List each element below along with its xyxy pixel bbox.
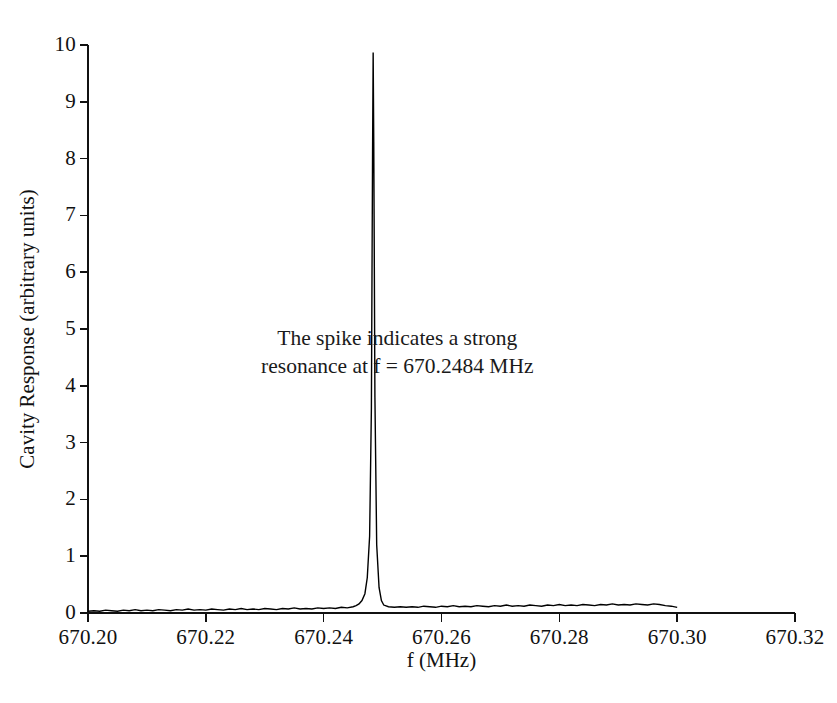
y-tick-label-9: 9 [16,91,76,112]
peak-annotation: The spike indicates a strong resonance a… [232,324,562,380]
y-tick-label-8: 8 [16,148,76,169]
y-tick-label-2: 2 [16,488,76,509]
y-tick-label-5: 5 [16,318,76,339]
x-tick-label-6: 670.32 [725,627,837,648]
y-tick-label-10: 10 [16,34,76,55]
figure-canvas: 012345678910 670.20670.22670.24670.26670… [0,0,837,703]
y-tick-label-0: 0 [16,602,76,623]
x-axis-title: f (MHz) [0,648,837,673]
peak-annotation-line-2: resonance at f = 670.2484 MHz [232,352,562,380]
y-tick-label-6: 6 [16,261,76,282]
peak-annotation-line-1: The spike indicates a strong [232,324,562,352]
y-tick-label-4: 4 [16,375,76,396]
y-tick-label-3: 3 [16,432,76,453]
y-tick-label-7: 7 [16,204,76,225]
y-tick-label-1: 1 [16,545,76,566]
